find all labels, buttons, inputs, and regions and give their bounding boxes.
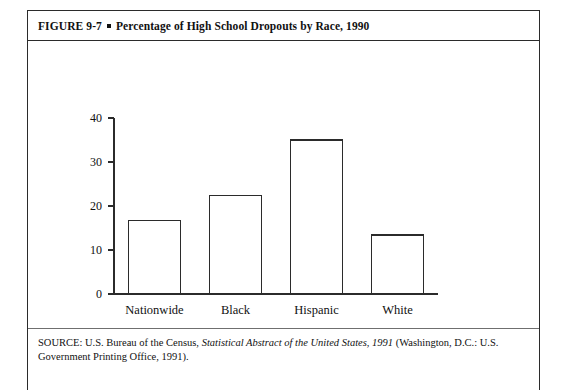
y-axis-tick-label: 30 <box>90 155 102 169</box>
figure-title: FIGURE 9-7Percentage of High School Drop… <box>28 20 369 32</box>
category-label: Nationwide <box>125 303 184 317</box>
filled-square-bullet-icon <box>107 24 111 28</box>
bar <box>129 220 181 294</box>
figure-title-bar: FIGURE 9-7Percentage of High School Drop… <box>28 11 539 41</box>
bar <box>291 140 343 294</box>
figure-title-text: Percentage of High School Dropouts by Ra… <box>116 20 370 32</box>
source-prefix: SOURCE: U.S. Bureau of the Census, <box>38 337 199 348</box>
source-divider <box>28 328 539 329</box>
y-axis-tick-label: 10 <box>90 243 102 257</box>
y-axis-tick-marks <box>108 118 114 294</box>
source-publication-title: Statistical Abstract of the United State… <box>202 337 393 348</box>
source-note: SOURCE: U.S. Bureau of the Census, Stati… <box>38 336 525 364</box>
bar-series <box>129 140 424 294</box>
y-axis-tick-label: 0 <box>96 287 102 301</box>
bar <box>372 235 424 294</box>
y-axis-tick-label: 40 <box>90 111 102 125</box>
bar-chart: 010203040 NationwideBlackHispanicWhite <box>28 41 539 328</box>
y-axis-tick-labels: 010203040 <box>90 111 102 301</box>
y-axis-tick-label: 20 <box>90 199 102 213</box>
x-axis-category-labels: NationwideBlackHispanicWhite <box>125 303 413 317</box>
category-label: Black <box>221 303 251 317</box>
figure-number: FIGURE 9-7 <box>38 20 102 32</box>
category-label: White <box>382 303 413 317</box>
category-label: Hispanic <box>294 303 339 317</box>
chart-svg: 010203040 NationwideBlackHispanicWhite <box>28 41 541 328</box>
bar <box>210 195 262 294</box>
figure-frame: FIGURE 9-7Percentage of High School Drop… <box>27 10 540 390</box>
